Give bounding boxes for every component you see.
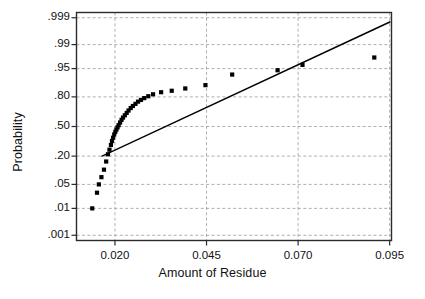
data-point [109, 143, 113, 147]
y-tick-label: .999 [24, 10, 70, 22]
data-point [183, 86, 187, 90]
y-tick-label: .99 [24, 37, 70, 49]
data-point [146, 94, 150, 98]
data-point [151, 92, 155, 96]
data-point [104, 159, 108, 163]
data-point [372, 55, 376, 59]
data-point [159, 90, 163, 94]
y-tick-label: .95 [24, 61, 70, 73]
y-axis-ticks [72, 18, 77, 236]
data-point [203, 83, 207, 87]
data-point [300, 63, 304, 67]
data-point [230, 72, 234, 76]
y-axis-title: Probability [11, 82, 25, 202]
x-tick-label: 0.020 [85, 249, 145, 261]
y-tick-label: .50 [24, 119, 70, 131]
data-point [95, 191, 99, 195]
data-point [170, 89, 174, 93]
y-tick-label: .001 [24, 228, 70, 240]
x-tick-label: 0.070 [268, 249, 328, 261]
x-axis-ticks [115, 241, 390, 246]
probability-plot-figure: .999.99.95.80.50.20.05.01.001 0.0200.045… [0, 0, 425, 299]
x-axis-title: Amount of Residue [0, 266, 425, 280]
data-point-markers [90, 55, 376, 210]
x-tick-label: 0.095 [360, 249, 420, 261]
horizontal-gridlines [77, 18, 392, 236]
x-tick-label: 0.045 [177, 249, 237, 261]
data-point [275, 68, 279, 72]
y-tick-label: .80 [24, 89, 70, 101]
data-point [107, 148, 111, 152]
data-point [90, 206, 94, 210]
data-point [102, 168, 106, 172]
normal-reference-line [102, 22, 390, 156]
y-tick-label: .20 [24, 149, 70, 161]
y-tick-label: .01 [24, 201, 70, 213]
data-point [142, 96, 146, 100]
data-point [99, 175, 103, 179]
y-tick-label: .05 [24, 177, 70, 189]
data-point [106, 152, 110, 156]
data-point [97, 182, 101, 186]
